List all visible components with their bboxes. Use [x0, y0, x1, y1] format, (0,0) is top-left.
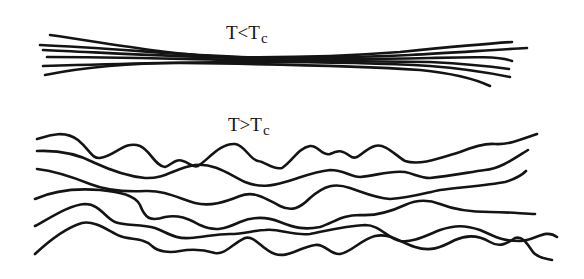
- label-subscript: c: [263, 122, 270, 138]
- disordered-chain: [35, 204, 557, 241]
- disordered-chain-group: [35, 134, 557, 260]
- disordered-state-label: T>Tc: [228, 115, 270, 134]
- label-subscript: c: [261, 30, 268, 46]
- disordered-chain: [37, 134, 537, 168]
- polymer-chain-diagram: [0, 0, 584, 279]
- ordered-chain-bundle: [40, 35, 527, 86]
- ordered-state-label: T<Tc: [226, 23, 268, 42]
- label-main: T<T: [226, 22, 260, 43]
- label-main: T>T: [228, 114, 262, 135]
